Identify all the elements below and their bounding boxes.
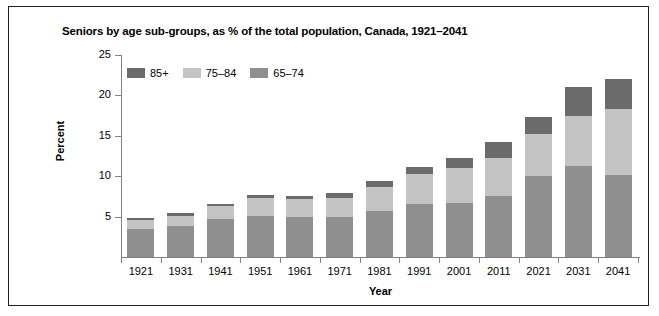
x-axis-tick [558,258,559,263]
x-axis-tick [399,258,400,263]
x-axis-tick [638,258,639,263]
bar-segment [565,116,592,166]
bar-group [167,55,194,257]
bar-segment [326,217,353,257]
bar-segment [525,134,552,176]
y-axis-tick-label: 10 [71,169,111,181]
bar-segment [485,196,512,257]
bar-group [286,55,313,257]
bar-segment [286,217,313,257]
chart-figure: Seniors by age sub-groups, as % of the t… [8,6,649,306]
bar-segment [207,204,234,206]
bar-segment [167,213,194,215]
bar-segment [446,203,473,257]
bar-segment [446,158,473,168]
bar-group [127,55,154,257]
bar-segment [485,158,512,197]
bar-group [406,55,433,257]
bar-group [525,55,552,257]
bar-segment [167,216,194,226]
bar-group [247,55,274,257]
bar-group [366,55,393,257]
bar-segment [366,211,393,257]
y-axis-tick-label: 20 [71,88,111,100]
bar-group [565,55,592,257]
x-axis-line [121,257,640,258]
bar-segment [167,226,194,258]
x-axis-tick-label: 2041 [595,265,641,277]
bar-segment [485,142,512,157]
x-axis-tick [479,258,480,263]
bar-segment [127,229,154,257]
x-axis-tick [439,258,440,263]
bar-segment [286,199,313,218]
x-axis-tick [519,258,520,263]
bar-segment [366,181,393,187]
y-axis-tick-label: 15 [71,129,111,141]
x-axis-tick [280,258,281,263]
chart-title: Seniors by age sub-groups, as % of the t… [62,25,468,37]
bar-group [326,55,353,257]
bar-segment [406,174,433,204]
bar-segment [326,198,353,217]
bar-segment [207,219,234,257]
bar-segment [127,220,154,229]
x-axis-tick [121,258,122,263]
x-axis-title: Year [121,285,640,297]
bar-segment [247,198,274,216]
x-axis-tick [201,258,202,263]
bar-segment [605,175,632,257]
y-axis-tick-label: 5 [71,210,111,222]
bar-segment [605,109,632,175]
bar-segment [565,87,592,115]
bar-segment [326,193,353,198]
bar-segment [406,204,433,257]
y-axis-title: Percent [54,86,66,196]
bar-segment [247,195,274,198]
bar-segment [406,167,433,174]
bar-group [207,55,234,257]
bar-segment [446,168,473,203]
bar-segment [207,206,234,219]
bar-segment [525,117,552,134]
bar-segment [127,218,154,220]
bar-segment [605,79,632,109]
x-axis-tick [161,258,162,263]
bar-group [446,55,473,257]
bar-segment [565,166,592,257]
y-axis-tick-label: 25 [71,48,111,60]
bar-group [485,55,512,257]
bar-segment [366,187,393,211]
bar-group [605,55,632,257]
x-axis-tick [240,258,241,263]
plot-area [121,55,638,257]
x-axis-tick [320,258,321,263]
bar-segment [286,196,313,199]
x-axis-tick [360,258,361,263]
x-axis-tick [598,258,599,263]
bar-segment [247,216,274,257]
bar-segment [525,176,552,257]
